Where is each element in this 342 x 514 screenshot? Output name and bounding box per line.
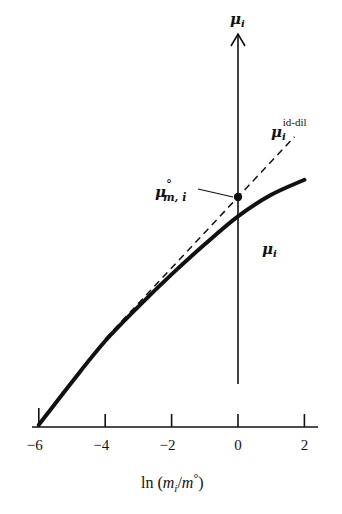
standard-state-point [234, 193, 242, 201]
y-axis-label: μi [230, 10, 245, 29]
x-axis-label: ln (mi/m°) [141, 471, 204, 494]
mu-i-id-dil-label: μiid-dil [271, 116, 307, 142]
x-tick-label: −4 [93, 437, 109, 453]
standard-state-leader-line [198, 189, 233, 197]
mu-i-curve [39, 180, 305, 425]
x-ticks: −6−4−202 [27, 408, 308, 453]
x-tick-label: −2 [160, 437, 176, 453]
x-tick-label: −6 [27, 437, 43, 453]
x-tick-label: 0 [234, 437, 242, 453]
mu-i-id-dil-line [105, 137, 294, 339]
x-tick-label: 2 [301, 437, 309, 453]
standard-state-label: μ°m, i [155, 178, 186, 204]
diagram-canvas: μi −6−4−202 ln (mi/m°) μ°m, i μi μiid-di… [0, 0, 342, 514]
mu-i-curve-label: μi [262, 240, 277, 259]
